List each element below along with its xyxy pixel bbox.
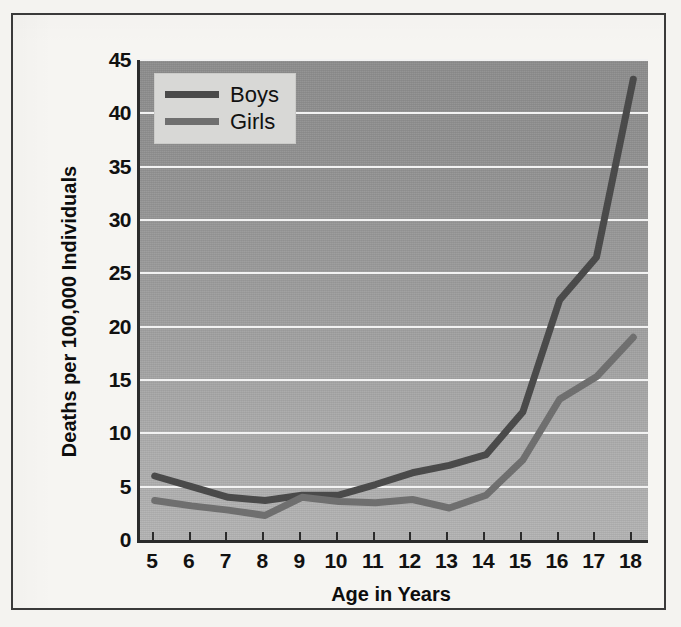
- y-axis-tick-label: 10: [85, 421, 131, 445]
- legend-item-girls: Girls: [165, 108, 279, 135]
- x-axis-tick-mark: [299, 532, 301, 543]
- x-axis-tick-mark: [262, 532, 264, 543]
- y-axis-tick-label: 45: [85, 48, 131, 72]
- y-axis-tick-label: 15: [85, 368, 131, 392]
- series-line-girls: [155, 337, 634, 515]
- y-axis-tick-label: 35: [85, 155, 131, 179]
- x-axis-tick-label: 10: [325, 549, 347, 573]
- y-axis-title: Deaths per 100,000 Individuals: [58, 102, 81, 522]
- legend-label-girls: Girls: [230, 111, 275, 133]
- legend-label-boys: Boys: [230, 84, 279, 106]
- x-axis-tick-labels: 56789101112131415161718: [137, 543, 645, 583]
- x-axis-tick-mark: [225, 532, 227, 543]
- x-axis-tick-mark: [483, 532, 485, 543]
- y-axis-tick-labels: 510152025303540450: [73, 60, 131, 540]
- x-axis-tick-mark: [409, 532, 411, 543]
- x-axis-title: Age in Years: [137, 583, 645, 606]
- x-axis-tick-label: 16: [545, 549, 567, 573]
- x-axis-tick-label: 9: [293, 549, 304, 573]
- x-axis-tick-mark: [336, 532, 338, 543]
- x-axis-tick-label: 7: [220, 549, 231, 573]
- x-axis-tick-label: 6: [183, 549, 194, 573]
- y-axis-tick-label: 20: [85, 315, 131, 339]
- x-axis-tick-mark: [373, 532, 375, 543]
- x-axis-tick-label: 5: [146, 549, 157, 573]
- legend-swatch-boys-icon: [165, 91, 219, 98]
- x-axis-tick-mark: [557, 532, 559, 543]
- x-axis-tick-label: 17: [582, 549, 604, 573]
- x-axis-tick-mark: [446, 532, 448, 543]
- legend-swatch-girls-icon: [165, 118, 219, 125]
- x-axis-tick-label: 14: [472, 549, 494, 573]
- x-axis-tick-label: 12: [398, 549, 420, 573]
- y-axis-tick-label: 40: [85, 101, 131, 125]
- x-axis-tick-mark: [630, 532, 632, 543]
- y-axis-tick-label-zero: 0: [85, 528, 131, 552]
- x-axis-tick-label: 8: [257, 549, 268, 573]
- y-axis-tick-label: 5: [85, 475, 131, 499]
- x-axis-tick-mark: [152, 532, 154, 543]
- figure-frame: 510152025303540450 Boys Girls 5678910111…: [11, 13, 666, 610]
- x-axis-tick-mark: [593, 532, 595, 543]
- x-axis-tick-label: 18: [619, 549, 641, 573]
- x-axis-tick-mark: [189, 532, 191, 543]
- x-axis-tick-label: 11: [362, 549, 383, 573]
- legend: Boys Girls: [154, 73, 296, 144]
- x-axis-tick-label: 15: [509, 549, 531, 573]
- chart-page: 510152025303540450 Boys Girls 5678910111…: [0, 0, 681, 627]
- x-axis-tick-label: 13: [435, 549, 457, 573]
- x-axis-tick-mark: [520, 532, 522, 543]
- y-axis-tick-label: 30: [85, 208, 131, 232]
- plot-area: Boys Girls: [137, 60, 648, 543]
- y-axis-tick-label: 25: [85, 261, 131, 285]
- legend-item-boys: Boys: [165, 81, 279, 108]
